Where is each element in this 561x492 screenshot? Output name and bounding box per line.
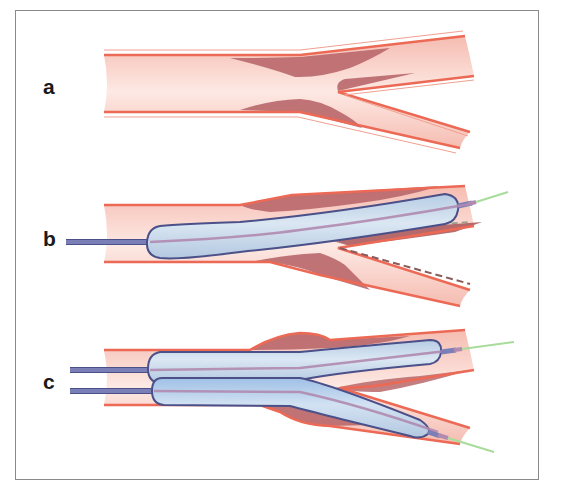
panel-label-a: a [43, 76, 55, 97]
guidewire-tip-side [448, 438, 494, 452]
panel-label-b: b [43, 228, 56, 249]
panel-label-c: c [43, 371, 55, 392]
guidewire-tip [476, 192, 508, 202]
panel-a-vessel [104, 31, 474, 153]
guidewire-tip-main [462, 342, 514, 349]
bifurcation-diagram [0, 0, 561, 492]
